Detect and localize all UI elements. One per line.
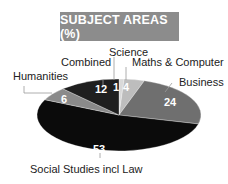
label-combined: Combined [61, 56, 111, 68]
label-business: Business [179, 76, 224, 88]
value-humanities: 6 [61, 93, 67, 105]
label-humanities: Humanities [13, 70, 69, 82]
label-maths: Maths & Computer [132, 56, 224, 68]
value-social: 53 [93, 143, 105, 155]
label-social: Social Studies incl Law [30, 163, 143, 175]
leader-humanities [24, 86, 52, 93]
value-maths: 4 [123, 81, 130, 93]
value-science: 1 [113, 81, 119, 93]
pie-chart: Science Maths & Computer Business Combin… [0, 0, 228, 184]
value-business: 24 [164, 96, 177, 108]
value-combined: 12 [95, 83, 107, 95]
